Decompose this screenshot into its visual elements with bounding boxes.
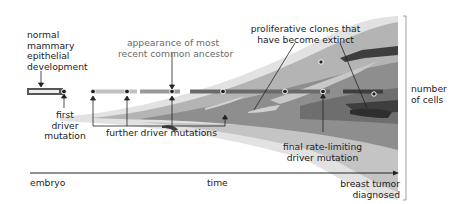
label-line: diagnosed — [330, 190, 400, 201]
lineage-bar-3 — [190, 90, 330, 94]
label-line: normal — [27, 30, 88, 41]
label-time: time — [207, 178, 228, 189]
label-line: recent common ancestor — [118, 49, 228, 60]
label-line: development — [27, 62, 88, 73]
label-line: have become extinct — [238, 35, 373, 46]
label-line: driver mutation — [265, 153, 380, 164]
label-line: appearance of most — [118, 38, 228, 49]
label-first-driver: first driver mutation — [44, 110, 86, 142]
normal-development-bar-inner — [29, 90, 59, 93]
label-mrca: appearance of most recent common ancesto… — [118, 38, 228, 59]
y-axis-bracket — [403, 16, 406, 200]
label-line: mutation — [44, 131, 86, 142]
label-line: number — [411, 84, 447, 95]
label-further-drivers: further driver mutations — [106, 128, 217, 139]
label-embryo: embryo — [30, 178, 65, 189]
label-normal-development: normal mammary epithelial development — [27, 30, 88, 72]
label-line: final rate-limiting — [265, 142, 380, 153]
label-y-axis: number of cells — [411, 84, 447, 105]
label-final-driver: final rate-limiting driver mutation — [265, 142, 380, 163]
label-line: of cells — [411, 95, 447, 106]
label-breast-tumor-diagnosed: breast tumor diagnosed — [330, 179, 400, 200]
label-line: breast tumor — [330, 179, 400, 190]
lineage-bar-1 — [92, 90, 137, 94]
label-line: proliferative clones that — [238, 24, 373, 35]
label-extinct-clones: proliferative clones that have become ex… — [238, 24, 373, 45]
lineage-bar-4 — [343, 90, 383, 94]
label-line: first — [44, 110, 86, 121]
